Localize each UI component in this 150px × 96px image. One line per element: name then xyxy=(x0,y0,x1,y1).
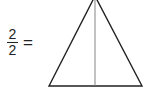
triangle-figure xyxy=(0,0,150,96)
triangle-outline xyxy=(49,0,142,86)
